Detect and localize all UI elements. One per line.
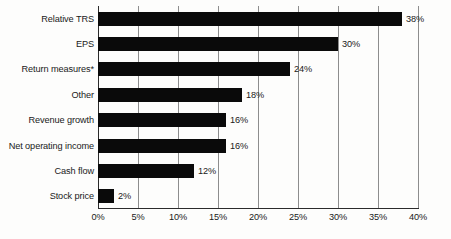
- bar-value-label: 2%: [118, 189, 131, 203]
- gridline-30pct: [338, 6, 339, 209]
- tick-label: 15%: [209, 212, 227, 222]
- bar-value-label: 30%: [342, 37, 360, 51]
- bar-value-label: 18%: [246, 88, 264, 102]
- category-label: Revenue growth: [0, 115, 94, 125]
- tick-label: 30%: [329, 212, 347, 222]
- tick-label: 20%: [249, 212, 267, 222]
- category-axis-labels: Relative TRSEPSReturn measures*OtherReve…: [0, 6, 94, 209]
- bar: [98, 88, 242, 102]
- category-label: Return measures*: [0, 64, 94, 74]
- plot-area: 38%30%24%18%16%16%12%2%: [98, 6, 418, 209]
- bar-value-label: 12%: [198, 164, 216, 178]
- bar-value-label: 16%: [230, 139, 248, 153]
- bar: [98, 37, 338, 51]
- bar-chart: Relative TRSEPSReturn measures*OtherReve…: [0, 0, 451, 239]
- bar: [98, 139, 226, 153]
- tick-label: 5%: [131, 212, 144, 222]
- tick-label: 40%: [409, 212, 427, 222]
- tick-label: 10%: [169, 212, 187, 222]
- tick-label: 0%: [91, 212, 104, 222]
- category-label: Net operating income: [0, 141, 94, 151]
- category-label: Stock price: [0, 191, 94, 201]
- category-label: EPS: [0, 39, 94, 49]
- bar: [98, 12, 402, 26]
- x-axis-tick-labels: 0%5%10%15%20%25%30%35%40%: [98, 212, 419, 228]
- bar: [98, 62, 290, 76]
- bar: [98, 164, 194, 178]
- bar-value-label: 24%: [294, 62, 312, 76]
- tick-label: 25%: [289, 212, 307, 222]
- x-axis-line: [98, 208, 419, 209]
- category-label: Relative TRS: [0, 14, 94, 24]
- gridline-35pct: [378, 6, 379, 209]
- bar-value-label: 38%: [406, 12, 424, 26]
- tick-label: 35%: [369, 212, 387, 222]
- bar: [98, 189, 114, 203]
- bar-value-label: 16%: [230, 113, 248, 127]
- bar: [98, 113, 226, 127]
- category-label: Other: [0, 90, 94, 100]
- category-label: Cash flow: [0, 166, 94, 176]
- gridline-40pct: [418, 6, 419, 209]
